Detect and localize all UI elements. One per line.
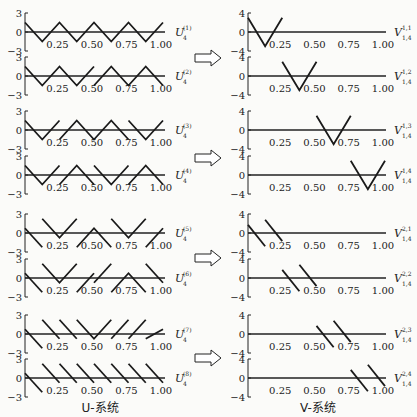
x-tick-label: 0.50	[81, 83, 103, 94]
svg-text:4: 4	[183, 34, 187, 41]
x-tick-label: 1.00	[150, 341, 172, 352]
svg-text:2,1: 2,1	[402, 225, 412, 232]
series-label: V1,41,4	[394, 167, 412, 184]
series-label: U4(5)	[175, 225, 192, 242]
svg-text:1,4: 1,4	[402, 132, 412, 139]
svg-text:(1): (1)	[183, 24, 192, 31]
svg-text:1,2: 1,2	[402, 68, 412, 75]
y-tick-label: −3	[7, 292, 22, 303]
arrow-icon	[195, 350, 221, 366]
x-tick-label: 0.25	[46, 285, 68, 296]
svg-text:2,3: 2,3	[402, 326, 412, 333]
x-tick-label: 0.50	[303, 341, 325, 352]
x-tick-label: 0.75	[115, 240, 137, 251]
svg-text:1,1: 1,1	[402, 24, 412, 31]
plot-u4-4-: 30−30.250.500.751.00U4(4)	[7, 151, 191, 200]
y-tick-label: 0	[239, 125, 245, 136]
y-tick-label: 0	[16, 27, 22, 38]
x-tick-label: 0.50	[303, 385, 325, 396]
x-tick-label: 1.00	[372, 137, 394, 148]
svg-text:1,4: 1,4	[402, 177, 412, 184]
series-label: V1,42,3	[394, 326, 412, 343]
y-tick-label: 4	[239, 106, 245, 117]
svg-text:4: 4	[183, 235, 187, 242]
y-tick-label: 0	[16, 228, 22, 239]
x-tick-label: 1.00	[372, 285, 394, 296]
x-tick-label: 1.00	[372, 182, 394, 193]
x-tick-label: 0.25	[46, 39, 68, 50]
plot-u4-2-: 30−30.250.500.751.00U4(2)	[7, 52, 191, 101]
x-tick-label: 0.25	[46, 385, 68, 396]
arrow-icon	[195, 150, 221, 166]
x-tick-label: 0.75	[338, 240, 360, 251]
plot-v1-4-1-3-: 40−40.250.500.751.00V1,41,3	[230, 106, 411, 155]
y-tick-label: 0	[16, 170, 22, 181]
x-tick-label: 0.25	[269, 285, 291, 296]
plot-u4-1-: 30−30.250.500.751.00U4(1)	[7, 8, 191, 57]
arrow-icon	[195, 50, 221, 66]
x-tick-label: 1.00	[150, 285, 172, 296]
y-tick-label: 3	[16, 354, 22, 365]
x-tick-label: 1.00	[150, 182, 172, 193]
x-tick-label: 0.75	[115, 285, 137, 296]
x-tick-label: 1.00	[372, 240, 394, 251]
y-tick-label: 4	[239, 52, 245, 63]
plot-u4-6-: 30−30.250.500.751.00U4(6)	[7, 254, 191, 303]
y-tick-label: −4	[230, 90, 245, 101]
y-tick-label: 0	[16, 373, 22, 384]
x-tick-label: 0.50	[81, 385, 103, 396]
y-tick-label: −4	[230, 189, 245, 200]
x-tick-label: 0.25	[46, 137, 68, 148]
x-tick-label: 0.75	[338, 83, 360, 94]
y-tick-label: −3	[7, 189, 22, 200]
y-tick-label: 0	[16, 71, 22, 82]
x-tick-label: 1.00	[150, 385, 172, 396]
x-tick-label: 0.75	[338, 285, 360, 296]
series-label: U4(8)	[175, 370, 192, 387]
y-tick-label: 0	[16, 125, 22, 136]
y-tick-label: 0	[239, 273, 245, 284]
svg-text:1,4: 1,4	[402, 78, 412, 85]
y-tick-label: 0	[239, 329, 245, 340]
svg-text:2,4: 2,4	[402, 370, 412, 377]
series-label: U4(4)	[175, 167, 192, 184]
x-tick-label: 0.75	[115, 341, 137, 352]
y-tick-label: 0	[16, 273, 22, 284]
svg-text:(2): (2)	[183, 68, 192, 75]
y-tick-label: 4	[239, 354, 245, 365]
y-tick-label: 0	[16, 329, 22, 340]
x-tick-label: 0.25	[46, 240, 68, 251]
figure: 30−30.250.500.751.00U4(1)30−30.250.500.7…	[0, 0, 417, 417]
x-tick-label: 0.50	[81, 137, 103, 148]
svg-text:4: 4	[183, 177, 187, 184]
plot-u4-5-: 30−30.250.500.751.00U4(5)	[7, 209, 191, 258]
x-tick-label: 0.75	[338, 39, 360, 50]
x-tick-label: 0.75	[115, 39, 137, 50]
x-tick-label: 1.00	[372, 341, 394, 352]
x-tick-label: 1.00	[150, 137, 172, 148]
y-tick-label: 4	[239, 254, 245, 265]
x-tick-label: 0.50	[81, 285, 103, 296]
y-tick-label: 3	[16, 151, 22, 162]
x-tick-label: 0.75	[115, 137, 137, 148]
arrow-icon	[195, 250, 221, 266]
x-tick-label: 0.50	[303, 240, 325, 251]
series-label: U4(1)	[175, 24, 192, 41]
svg-text:4: 4	[183, 132, 187, 139]
plot-v1-4-1-1-: 40−40.250.500.751.00V1,41,1	[230, 8, 411, 57]
y-tick-label: 3	[16, 106, 22, 117]
plot-v1-4-2-3-: 40−40.250.500.751.00V1,42,3	[230, 310, 411, 359]
svg-text:(7): (7)	[183, 326, 192, 333]
x-tick-label: 0.25	[46, 83, 68, 94]
x-tick-label: 1.00	[150, 240, 172, 251]
series-label: U4(7)	[175, 326, 192, 343]
y-tick-label: −3	[7, 90, 22, 101]
x-tick-label: 0.75	[115, 182, 137, 193]
x-tick-label: 0.50	[303, 285, 325, 296]
x-tick-label: 1.00	[372, 83, 394, 94]
y-tick-label: 0	[239, 170, 245, 181]
x-tick-label: 1.00	[372, 385, 394, 396]
svg-text:1,4: 1,4	[402, 280, 412, 287]
svg-text:(3): (3)	[183, 122, 192, 129]
y-tick-label: 0	[239, 27, 245, 38]
